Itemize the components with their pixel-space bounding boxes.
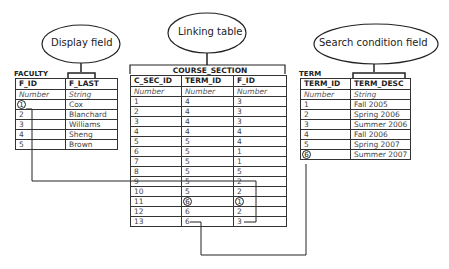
table-row: 243 [131, 107, 287, 117]
column-header: TERM_DESC [351, 79, 411, 90]
course-section-table: COURSE_SECTION C_SEC_ID TERM_ID F_ID Num… [130, 66, 287, 227]
table-row: 143 [131, 97, 287, 107]
table-title-row: COURSE_SECTION [131, 66, 287, 76]
term-table: TERM_ID TERM_DESC Number String 1Fall 20… [300, 78, 411, 160]
type-row: Number Number Number [131, 87, 287, 97]
table-header-row: F_ID F_LAST [16, 79, 118, 90]
highlight-circle: 6 [183, 197, 192, 206]
table-row: 751 [131, 157, 287, 167]
column-header: C_SEC_ID [131, 76, 182, 87]
table-row: 855 [131, 167, 287, 177]
table-row: 2Blanchard [16, 110, 118, 120]
table-row: 1052 [131, 187, 287, 197]
table-row: 5Spring 2007 [301, 140, 411, 150]
table-row: 3Williams [16, 120, 118, 130]
highlight-circle: 1 [17, 100, 26, 109]
display-field-callout: Display field [51, 37, 113, 48]
table-row: 4Sheng [16, 130, 118, 140]
table-row: 4Fall 2006 [301, 130, 411, 140]
table-row: 1363 [131, 217, 287, 227]
table-row: 952 [131, 177, 287, 187]
table-row: 343 [131, 117, 287, 127]
table-row: 2Spring 2006 [301, 110, 411, 120]
type-row: Number String [301, 90, 411, 100]
table-row: 651 [131, 147, 287, 157]
type-row: Number String [16, 90, 118, 100]
linking-table-callout: Linking table [178, 26, 242, 37]
column-header: F_ID [16, 79, 66, 90]
column-header: F_LAST [66, 79, 118, 90]
table-row: 3Summer 2006 [301, 120, 411, 130]
column-header: F_ID [234, 76, 287, 87]
table-row: 1262 [131, 207, 287, 217]
column-header: TERM_ID [301, 79, 351, 90]
table-row: 6Summer 2007 [301, 150, 411, 160]
table-row: 5Brown [16, 140, 118, 150]
table-header-row: TERM_ID TERM_DESC [301, 79, 411, 90]
faculty-table-label: FACULTY [14, 70, 48, 78]
table-header-row: C_SEC_ID TERM_ID F_ID [131, 76, 287, 87]
table-row: 1Fall 2005 [301, 100, 411, 110]
column-header: TERM_ID [182, 76, 234, 87]
table-row: 554 [131, 137, 287, 147]
course-section-title: COURSE_SECTION [131, 66, 287, 76]
faculty-table: F_ID F_LAST Number String 1Cox 2Blanchar… [15, 78, 118, 150]
table-row: 444 [131, 127, 287, 137]
highlight-circle: 1 [235, 197, 244, 206]
highlight-circle: 6 [302, 150, 311, 159]
search-condition-field-callout: Search condition field [319, 37, 428, 48]
table-row: 1Cox [16, 100, 118, 110]
table-row-highlighted: 1161 [131, 197, 287, 207]
term-table-label: TERM [299, 70, 321, 78]
